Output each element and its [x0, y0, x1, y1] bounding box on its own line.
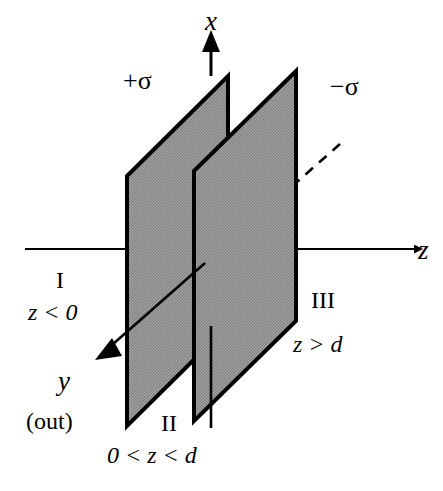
physics-diagram: x y z (out) +σ −σ I z < 0 II 0 < z < d I…	[0, 0, 443, 491]
region-II-condition: 0 < z < d	[107, 443, 197, 467]
plane-negative-sigma-label: −σ	[330, 74, 359, 100]
axis-label-z: z	[418, 237, 429, 264]
plane-positive-sigma-label: +σ	[123, 68, 152, 94]
region-III-numeral: III	[311, 288, 335, 312]
region-II-numeral: II	[161, 411, 177, 435]
axis-label-x: x	[205, 8, 217, 35]
region-I-condition: z < 0	[28, 300, 78, 324]
region-I-numeral: I	[56, 268, 64, 292]
axis-label-y: y	[58, 368, 70, 395]
region-III-condition: z > d	[293, 332, 343, 356]
y-axis-out-of-page-note: (out)	[26, 409, 73, 433]
